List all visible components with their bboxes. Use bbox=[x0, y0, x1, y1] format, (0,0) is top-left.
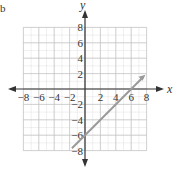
x-tick-label: −4 bbox=[48, 91, 60, 103]
y-tick-label: −2 bbox=[71, 98, 83, 110]
coordinate-plane: xy−8−6−4−224688642−2−4−6−8b bbox=[0, 0, 174, 173]
x-axis-arrow-left-icon bbox=[8, 86, 16, 92]
y-axis-label: y bbox=[79, 0, 86, 12]
corner-label: b bbox=[0, 2, 6, 14]
y-tick-label: −4 bbox=[71, 114, 83, 126]
x-tick-label: 8 bbox=[144, 91, 150, 103]
y-tick-label: 6 bbox=[78, 37, 84, 49]
data-line bbox=[72, 77, 144, 149]
y-axis-arrow-down-icon bbox=[82, 159, 88, 167]
x-tick-label: 2 bbox=[98, 91, 104, 103]
y-tick-label: 8 bbox=[78, 21, 84, 33]
y-tick-label: 2 bbox=[78, 68, 84, 80]
x-tick-label: −6 bbox=[33, 91, 45, 103]
x-tick-label: 6 bbox=[128, 91, 134, 103]
x-axis-arrow-right-icon bbox=[156, 86, 164, 92]
x-axis-label: x bbox=[166, 82, 173, 96]
y-tick-label: 4 bbox=[78, 52, 84, 64]
x-tick-label: −8 bbox=[18, 91, 30, 103]
